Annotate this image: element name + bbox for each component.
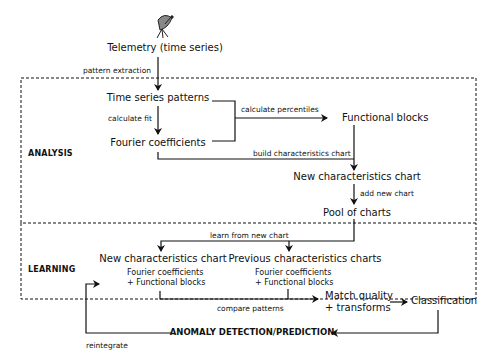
node-functional-blocks: Functional blocks [342,112,428,123]
edge-compare-patterns [160,291,318,299]
node-time-series-patterns: Time series patterns [107,92,209,103]
label-build-characteristics-chart: build characteristics chart [253,149,351,158]
satellite-dish-icon [157,15,173,38]
analysis-section-box [21,78,476,223]
label-compare-patterns: compare patterns [217,304,284,313]
label-add-new-chart: add new chart [360,189,414,198]
node-pool-of-charts: Pool of charts [323,207,391,218]
edge-reintegrate [86,284,172,333]
label-calculate-percentiles: calculate percentiles [241,105,319,114]
section-label-analysis: ANALYSIS [28,149,73,158]
label-calculate-fit: calculate fit [108,114,152,123]
edge-classification-anomaly [332,310,438,333]
node-match-quality: Match quality [325,290,393,301]
node-match-transforms: + transforms [325,302,391,313]
label-learn-from-new-chart: learn from new chart [210,231,289,240]
node-fourier-coefficients: Fourier coefficients [110,137,206,148]
node-previous-charts: Previous characteristics charts [228,253,381,264]
node-classification: Classification [411,295,477,306]
node-learning-new-chart: New characteristics chart [99,253,226,264]
node-learning-new-chart-functional: + Functional blocks [127,277,205,288]
node-telemetry: Telemetry (time series) [107,42,223,53]
node-anomaly-detection: ANOMALY DETECTION/PREDICTION [170,327,335,337]
node-new-characteristics-chart: New characteristics chart [293,171,420,182]
node-previous-charts-functional: + Functional blocks [255,277,333,288]
label-reintegrate: reintegrate [86,341,128,350]
label-pattern-extraction: pattern extraction [83,66,151,75]
section-label-learning: LEARNING [28,265,75,274]
